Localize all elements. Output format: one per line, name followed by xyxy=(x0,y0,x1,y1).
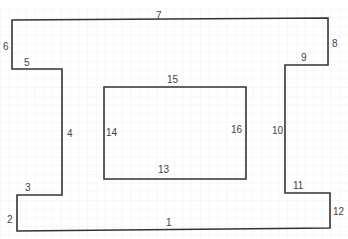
edge-label-15: 15 xyxy=(167,75,178,85)
edge-label-7: 7 xyxy=(156,11,162,21)
edge-label-2: 2 xyxy=(7,215,13,225)
edge-label-4: 4 xyxy=(67,129,73,139)
edge-label-12: 12 xyxy=(333,207,344,217)
edge-label-11: 11 xyxy=(293,181,303,191)
edge-label-6: 6 xyxy=(3,42,9,52)
edge-label-5: 5 xyxy=(24,58,30,68)
grid-background xyxy=(0,8,348,239)
edge-label-3: 3 xyxy=(25,183,31,193)
edge-label-9: 9 xyxy=(301,53,307,63)
edge-label-14: 14 xyxy=(106,128,117,138)
edge-label-13: 13 xyxy=(158,165,169,175)
diagram-canvas xyxy=(0,0,348,239)
edge-label-8: 8 xyxy=(332,39,338,49)
edge-label-16: 16 xyxy=(231,125,242,135)
edge-label-1: 1 xyxy=(166,218,172,228)
edge-label-10: 10 xyxy=(272,126,283,136)
